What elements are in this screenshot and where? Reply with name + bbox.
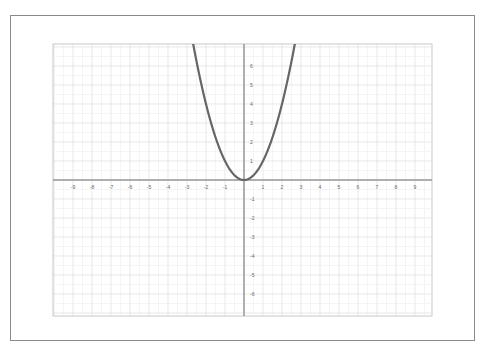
x-tick-label: -2 bbox=[204, 184, 209, 190]
coordinate-plane: -9-8-7-6-5-4-3-2-1123456789654321-1-2-3-… bbox=[0, 0, 485, 346]
x-tick-label: -9 bbox=[71, 184, 76, 190]
x-tick-label: -7 bbox=[109, 184, 114, 190]
y-tick-label: 2 bbox=[250, 139, 253, 145]
x-tick-label: 9 bbox=[414, 184, 417, 190]
x-tick-label: 7 bbox=[376, 184, 379, 190]
y-tick-label: -6 bbox=[250, 291, 255, 297]
y-tick-label: -4 bbox=[250, 253, 255, 259]
x-tick-label: 8 bbox=[395, 184, 398, 190]
x-tick-label: -4 bbox=[166, 184, 171, 190]
y-tick-label: 1 bbox=[250, 158, 253, 164]
x-tick-label: 4 bbox=[319, 184, 322, 190]
x-tick-label: 3 bbox=[300, 184, 303, 190]
x-tick-label: -3 bbox=[185, 184, 190, 190]
y-tick-label: 4 bbox=[250, 101, 253, 107]
x-tick-label: -5 bbox=[147, 184, 152, 190]
x-tick-label: -8 bbox=[90, 184, 95, 190]
x-tick-label: -1 bbox=[223, 184, 228, 190]
y-tick-label: 5 bbox=[250, 82, 253, 88]
y-tick-label: -3 bbox=[250, 234, 255, 240]
x-tick-label: -6 bbox=[128, 184, 133, 190]
x-tick-label: 6 bbox=[357, 184, 360, 190]
y-tick-label: 3 bbox=[250, 120, 253, 126]
x-tick-label: 1 bbox=[262, 184, 265, 190]
y-tick-label: -1 bbox=[250, 196, 255, 202]
x-tick-label: 5 bbox=[338, 184, 341, 190]
y-tick-label: 6 bbox=[250, 63, 253, 69]
y-tick-label: -2 bbox=[250, 215, 255, 221]
y-tick-label: -5 bbox=[250, 272, 255, 278]
x-tick-label: 2 bbox=[281, 184, 284, 190]
